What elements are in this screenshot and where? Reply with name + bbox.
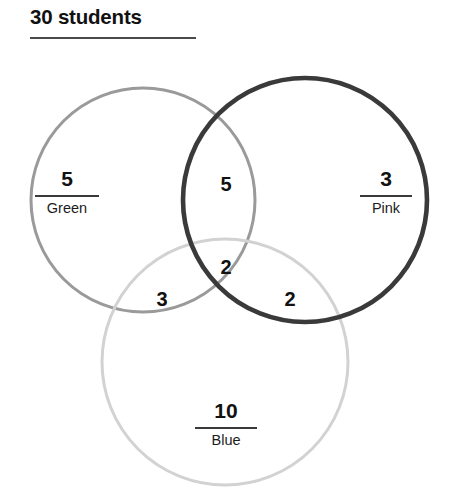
region-green-blue-count: 3 bbox=[156, 288, 167, 310]
region-pink-only-count: 3 bbox=[360, 168, 412, 190]
region-green-blue: 3 bbox=[156, 288, 167, 310]
venn-diagram-page: 30 students 5 Green 3 Pink 10 Blue 5 2 3… bbox=[0, 0, 455, 504]
region-pink-only-label: Pink bbox=[360, 200, 412, 216]
region-green-pink-count: 5 bbox=[220, 173, 231, 195]
region-green-only: 5 Green bbox=[35, 168, 99, 216]
region-green-pink-blue-count: 2 bbox=[220, 256, 231, 278]
region-pink-blue-count: 2 bbox=[284, 288, 295, 310]
region-green-only-underline bbox=[35, 195, 99, 197]
region-blue-only: 10 Blue bbox=[195, 400, 257, 448]
region-green-pink-blue: 2 bbox=[220, 256, 231, 278]
region-pink-blue: 2 bbox=[284, 288, 295, 310]
region-green-only-label: Green bbox=[35, 200, 99, 216]
region-pink-only: 3 Pink bbox=[360, 168, 412, 216]
region-blue-only-count: 10 bbox=[195, 400, 257, 422]
region-blue-only-underline bbox=[195, 427, 257, 429]
region-pink-only-underline bbox=[360, 195, 412, 197]
region-green-only-count: 5 bbox=[35, 168, 99, 190]
region-green-pink: 5 bbox=[220, 173, 231, 195]
region-blue-only-label: Blue bbox=[195, 432, 257, 448]
